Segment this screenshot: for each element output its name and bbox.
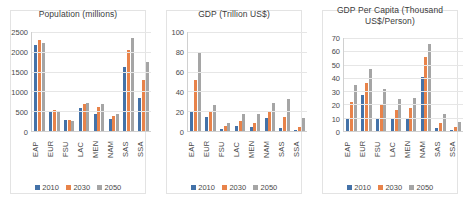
bar-2010: [450, 130, 453, 131]
bar-2030: [224, 126, 227, 131]
legend-label: 2030: [73, 183, 90, 192]
bar-2030: [253, 123, 256, 131]
y-axis-gdp-per-capita: 010203040506070: [316, 38, 342, 132]
gridline: [188, 52, 307, 53]
bar-2050: [302, 118, 305, 131]
chart-panel-gdp[interactable]: GDP (Trillion US$) 020406080100 EAPEURFS…: [156, 0, 312, 204]
bar-2030: [194, 80, 197, 131]
gridline: [344, 91, 463, 92]
x-tick-label: MEN: [247, 134, 262, 164]
gridline: [344, 104, 463, 105]
legend-item-2010[interactable]: 2010: [191, 183, 215, 192]
legend-swatch-icon: [35, 185, 40, 190]
bar-2030: [395, 110, 398, 131]
bar-group: [136, 32, 151, 131]
bar-2010: [279, 128, 282, 131]
bar-2050: [101, 104, 104, 131]
legend-swatch-icon: [378, 185, 383, 190]
x-tick-label: EAP: [343, 134, 358, 164]
bar-2010: [235, 126, 238, 131]
x-tick-label: EUR: [46, 134, 61, 164]
x-tick-label: LAC: [232, 134, 247, 164]
bar-2030: [409, 108, 412, 131]
plot-area-population: 05001000150020002500: [4, 32, 152, 132]
legend-item-2030[interactable]: 2030: [378, 183, 402, 192]
x-tick-label: MEN: [403, 134, 418, 164]
x-tick-label: NAM: [106, 134, 121, 164]
bar-2010: [265, 118, 268, 131]
bar-2050: [257, 114, 260, 131]
legend-population: 201020302050: [6, 183, 150, 192]
bar-2030: [439, 123, 442, 131]
plot-area-gdp-per-capita: 010203040506070: [316, 38, 464, 132]
x-tick-label: LAC: [388, 134, 403, 164]
legend-item-2050[interactable]: 2050: [409, 183, 433, 192]
chart-panel-population[interactable]: Population (millions) 050010001500200025…: [0, 0, 156, 204]
legend-label: 2010: [198, 183, 215, 192]
y-tick-label: 500: [15, 108, 28, 117]
bar-2050: [287, 99, 290, 131]
x-tick-label: SAS: [121, 134, 136, 164]
x-tick-label: SSA: [448, 134, 463, 164]
bar-group: [262, 32, 277, 131]
bar-2010: [376, 118, 379, 131]
chart-panel-gdp-per-capita[interactable]: GDP Per Capita (Thousand US$/Person) 010…: [312, 0, 468, 204]
legend-item-2030[interactable]: 2030: [66, 183, 90, 192]
x-tick-label: SSA: [136, 134, 151, 164]
bar-2050: [71, 121, 74, 131]
legend-item-2050[interactable]: 2050: [253, 183, 277, 192]
plot-gdp: [187, 32, 307, 132]
gridline: [188, 72, 307, 73]
bar-2050: [458, 122, 461, 131]
x-axis-population: EAPEURFSULACMENNAMSASSSA: [31, 134, 151, 170]
legend-swatch-icon: [66, 185, 71, 190]
bar-2010: [190, 112, 193, 131]
bar-2050: [86, 103, 89, 132]
bar-group: [233, 32, 248, 131]
legend-item-2050[interactable]: 2050: [97, 183, 121, 192]
y-tick-label: 20: [332, 101, 340, 110]
bar-2010: [391, 118, 394, 131]
gridline: [344, 118, 463, 119]
y-tick-label: 80: [176, 48, 184, 57]
legend-swatch-icon: [222, 185, 227, 190]
legend-item-2030[interactable]: 2030: [222, 183, 246, 192]
legend-item-2010[interactable]: 2010: [347, 183, 371, 192]
y-tick-label: 50: [332, 60, 340, 69]
bar-2030: [142, 80, 145, 131]
bar-group: [32, 32, 47, 131]
chart-title-gdp-per-capita: GDP Per Capita (Thousand US$/Person): [318, 5, 462, 27]
x-tick-label: MEN: [91, 134, 106, 164]
y-tick-label: 0: [180, 128, 184, 137]
x-tick-label: FSU: [373, 134, 388, 164]
bar-2010: [109, 119, 112, 131]
gridline: [32, 111, 151, 112]
bar-group: [292, 32, 307, 131]
bar-group: [121, 32, 136, 131]
gridline: [188, 32, 307, 33]
y-tick-label: 100: [171, 28, 184, 37]
bar-2010: [346, 119, 349, 131]
x-tick-label: LAC: [76, 134, 91, 164]
legend-item-2010[interactable]: 2010: [35, 183, 59, 192]
bar-2030: [83, 104, 86, 131]
bar-2050: [383, 89, 386, 131]
bar-2030: [283, 117, 286, 131]
y-axis-population: 05001000150020002500: [4, 32, 30, 132]
plot-area-gdp: 020406080100: [160, 32, 308, 132]
bar-2030: [38, 40, 41, 131]
y-tick-label: 0: [336, 128, 340, 137]
bar-2010: [361, 95, 364, 131]
legend-label: 2050: [261, 183, 278, 192]
bar-2010: [94, 114, 97, 131]
x-tick-label: SAS: [433, 134, 448, 164]
y-tick-label: 1000: [11, 88, 28, 97]
bar-group: [277, 32, 292, 131]
chart-title-line-2: US$/Person): [318, 16, 462, 27]
x-tick-label: EAP: [187, 134, 202, 164]
bar-2010: [138, 98, 141, 131]
bar-2010: [205, 117, 208, 131]
bar-groups-gdp: [188, 32, 307, 131]
gridline: [32, 91, 151, 92]
bar-2010: [435, 128, 438, 131]
